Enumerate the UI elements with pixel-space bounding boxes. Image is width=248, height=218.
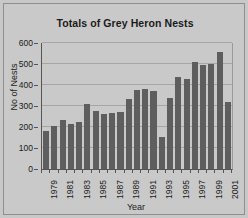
x-tick-mark	[74, 170, 75, 173]
chart-title: Totals of Grey Heron Nests	[4, 17, 246, 29]
x-tick-label: 1995	[181, 180, 191, 199]
bar	[109, 113, 115, 169]
bar	[51, 126, 57, 169]
bar	[159, 137, 165, 169]
x-tick-mark	[132, 170, 133, 173]
bar	[192, 62, 198, 169]
x-tick-label: 1983	[82, 180, 92, 199]
y-tick-mark	[34, 169, 38, 170]
y-tick-label: 500	[19, 59, 33, 69]
x-tick-label: 1993	[164, 180, 174, 199]
x-tick-mark	[223, 170, 224, 173]
x-tick-mark	[124, 170, 125, 173]
x-tick-mark	[66, 170, 67, 173]
y-tick-mark	[34, 127, 38, 128]
x-tick-label: 1997	[197, 180, 207, 199]
bar	[184, 79, 190, 169]
x-tick-mark	[148, 170, 149, 173]
y-tick-label: 300	[19, 101, 33, 111]
x-tick-label: 1985	[98, 180, 108, 199]
bar	[200, 65, 206, 169]
bar	[134, 90, 140, 169]
x-tick-label: 1987	[115, 180, 125, 199]
bar-series	[42, 43, 232, 169]
y-tick-mark	[34, 85, 38, 86]
bar	[126, 99, 132, 169]
chart-container: Totals of Grey Heron Nests No of Nests 0…	[3, 3, 245, 215]
bar	[68, 124, 74, 169]
x-tick-label: 1989	[131, 180, 141, 199]
x-tick-mark	[41, 170, 42, 173]
x-tick-mark	[157, 170, 158, 173]
y-tick-label: 600	[19, 38, 33, 48]
x-axis: 1979198119831985198719891991199319951997…	[41, 174, 232, 204]
x-tick-mark	[140, 170, 141, 173]
bar	[93, 111, 99, 169]
x-tick-label: 1999	[214, 180, 224, 199]
x-tick-mark	[231, 170, 232, 173]
y-tick-label: 0	[28, 164, 33, 174]
x-tick-mark	[198, 170, 199, 173]
y-tick-label: 100	[19, 143, 33, 153]
x-tick-mark	[173, 170, 174, 173]
y-tick-mark	[34, 43, 38, 44]
bar	[84, 104, 90, 169]
bar	[208, 64, 214, 169]
bar	[117, 112, 123, 169]
bar	[167, 98, 173, 169]
x-tick-mark	[165, 170, 166, 173]
plot-area	[41, 43, 233, 170]
x-tick-mark	[58, 170, 59, 173]
x-tick-label: 2001	[230, 180, 240, 199]
x-tick-mark	[206, 170, 207, 173]
bar	[101, 114, 107, 169]
bar	[60, 120, 66, 169]
x-tick-mark	[107, 170, 108, 173]
y-tick-mark	[34, 148, 38, 149]
x-tick-mark	[181, 170, 182, 173]
x-tick-mark	[115, 170, 116, 173]
bar	[175, 77, 181, 169]
y-axis: 0100200300400500600	[4, 43, 38, 170]
x-tick-mark	[99, 170, 100, 173]
x-tick-mark	[214, 170, 215, 173]
x-tick-mark	[91, 170, 92, 173]
bar	[43, 131, 49, 169]
y-tick-mark	[34, 64, 38, 65]
y-tick-mark	[34, 106, 38, 107]
x-tick-label: 1981	[65, 180, 75, 199]
y-tick-label: 200	[19, 122, 33, 132]
bar	[150, 91, 156, 169]
y-tick-label: 400	[19, 80, 33, 90]
x-axis-title: Year	[41, 202, 231, 212]
x-tick-mark	[190, 170, 191, 173]
bar	[142, 89, 148, 169]
bar	[225, 102, 231, 169]
x-tick-label: 1991	[148, 180, 158, 199]
x-tick-mark	[49, 170, 50, 173]
bar	[217, 52, 223, 169]
x-tick-mark	[82, 170, 83, 173]
x-tick-label: 1979	[49, 180, 59, 199]
bar	[76, 122, 82, 169]
